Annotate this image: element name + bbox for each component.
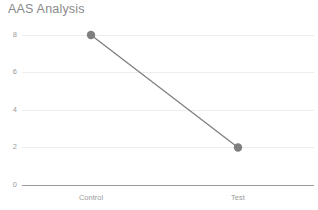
chart-container: AAS Analysis 8 6 4 2 0 Control Test [0, 0, 318, 210]
x-tick-label-control: Control [79, 194, 103, 202]
data-point-marker[interactable] [234, 143, 242, 151]
x-axis-tick-labels: Control Test [22, 194, 314, 208]
y-tick-label: 0 [13, 181, 17, 189]
y-tick-label: 2 [13, 143, 17, 151]
y-tick-label: 6 [13, 68, 17, 76]
data-point-marker[interactable] [87, 31, 95, 39]
series-layer [22, 20, 314, 192]
x-tick-label-test: Test [231, 194, 245, 202]
y-tick-label: 4 [13, 106, 17, 114]
chart-title: AAS Analysis [8, 2, 85, 16]
plot-area [22, 20, 314, 192]
y-tick-label: 8 [13, 31, 17, 39]
y-axis-tick-labels: 8 6 4 2 0 [0, 20, 17, 192]
series-line [91, 35, 238, 148]
